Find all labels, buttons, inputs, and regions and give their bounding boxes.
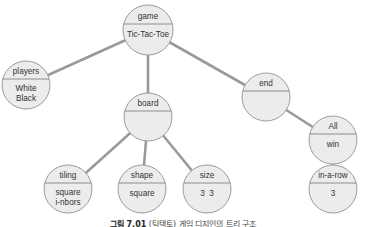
nodes-layer: gameTic-Tac-ToeplayersWhiteBlackendboard… (2, 5, 357, 213)
node-value: 3 (331, 189, 336, 198)
node-value: Black (16, 94, 37, 103)
node-value: win (326, 140, 340, 149)
node-name: shape (131, 171, 154, 180)
node-all: Allwin (309, 116, 357, 164)
figure-label: 그림 7.01 (110, 220, 147, 227)
node-value: square (129, 189, 154, 198)
node-value: square (55, 188, 80, 197)
node-game: gameTic-Tac-Toe (123, 5, 173, 55)
node-end: end (242, 73, 290, 121)
node-inarow: in-a-row3 (309, 165, 357, 213)
node-name: in-a-row (318, 171, 348, 180)
node-name: players (13, 67, 39, 76)
figure-caption-text: (틱택토) 게임 디지인의 트리 구조 (149, 220, 256, 227)
tree-diagram: gameTic-Tac-ToeplayersWhiteBlackendboard… (0, 0, 366, 227)
node-name: All (328, 122, 337, 131)
node-value: Tic-Tac-Toe (127, 30, 169, 39)
node-name: board (138, 99, 159, 108)
node-shape: shapesquare (118, 165, 166, 213)
node-value: 3 3 (200, 189, 214, 198)
node-value: i-nbors (55, 198, 80, 207)
node-name: tiling (60, 171, 77, 180)
node-value: White (16, 84, 37, 93)
figure-caption: 그림 7.01 (틱택토) 게임 디지인의 트리 구조 (0, 218, 366, 227)
node-board: board (124, 93, 172, 141)
node-name: game (138, 12, 159, 21)
node-name: end (259, 79, 273, 88)
node-players: playersWhiteBlack (2, 61, 50, 109)
node-tiling: tilingsquarei-nbors (44, 165, 92, 213)
node-size: size3 3 (183, 165, 231, 213)
node-name: size (200, 171, 215, 180)
